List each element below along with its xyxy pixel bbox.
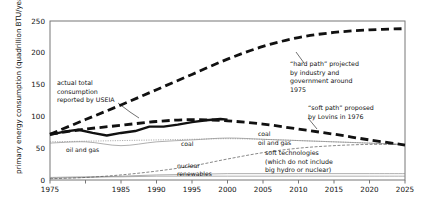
x-tick-2015: 2015 <box>325 185 343 194</box>
x-tick-2010: 2010 <box>289 185 308 194</box>
label-oil-and-gas-right: oil and gas <box>258 139 291 147</box>
label-oil-and-gas-left: oil and gas <box>66 146 99 154</box>
y-axis: 250 200 150 100 50 0 <box>31 17 45 185</box>
x-tick-2025: 2025 <box>396 185 414 194</box>
x-axis-labels: 1975 1985 1990 1995 2000 2005 2010 2015 … <box>41 185 414 194</box>
y-tick-200: 200 <box>31 48 45 57</box>
label-nuclear: nuclear <box>177 162 200 169</box>
y-tick-150: 150 <box>31 80 45 89</box>
annotation-hard-path-line2: by industry and <box>290 69 339 77</box>
x-axis-ticks <box>50 180 405 184</box>
x-tick-2020: 2020 <box>360 185 379 194</box>
label-coal-right: coal <box>258 130 271 137</box>
annotation-soft-technologies-line1: soft technologies <box>265 149 319 157</box>
annotation-soft-path-line1: “soft path” proposed <box>308 104 374 112</box>
x-tick-1995: 1995 <box>183 185 201 194</box>
annotation-soft-technologies-line2: (which do not include <box>265 158 333 165</box>
x-tick-1985: 1985 <box>112 185 130 194</box>
x-tick-1990: 1990 <box>147 185 166 194</box>
annotation-actual-total-line2: consumption <box>57 88 98 96</box>
label-coal-left: coal <box>181 140 194 147</box>
x-tick-2005: 2005 <box>254 185 272 194</box>
chart-plot-area: 250 200 150 100 50 0 1975 1985 1990 1 <box>0 0 428 211</box>
x-tick-2000: 2000 <box>218 185 237 194</box>
annotation-hard-path-line4: 1975 <box>290 86 306 93</box>
x-tick-1975: 1975 <box>41 185 59 194</box>
annotation-soft-technologies-line3: big hydro or nuclear) <box>265 166 331 174</box>
annotation-hard-path-line3: government around <box>290 77 353 85</box>
annotation-soft-path-line2: by Lovins in 1976 <box>308 113 364 121</box>
y-tick-250: 250 <box>31 17 45 26</box>
label-renewables: renewables <box>177 170 212 177</box>
annotation-actual-total-line1: actual total <box>57 79 93 86</box>
y-tick-100: 100 <box>31 112 45 121</box>
annotation-hard-path-line1: “hard path” projected <box>290 60 359 68</box>
energy-consumption-chart: primary energy consumption (quadrillion … <box>0 0 428 211</box>
y-tick-50: 50 <box>36 144 46 153</box>
y-tick-0: 0 <box>40 176 45 185</box>
annotation-actual-total-line3: reported by USEIA <box>57 96 115 104</box>
